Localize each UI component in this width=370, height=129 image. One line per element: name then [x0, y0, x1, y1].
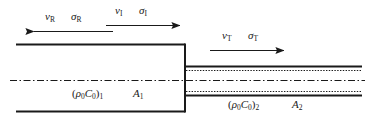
pipe-geometry-svg [0, 0, 370, 129]
right-section-area-label: A2 [292, 99, 302, 110]
left-section-area-label: A1 [133, 88, 143, 99]
left-section-impedance-label: (ρ0C0)1 [72, 88, 103, 99]
transmitted-velocity-label: νT [222, 30, 232, 41]
reflected-velocity-label: νR [45, 11, 55, 22]
incident-stress-label: σI [139, 5, 147, 16]
incident-velocity-label: νI [115, 5, 122, 16]
figure-canvas: νR σR νI σI νT σT (ρ0C0)1 A1 (ρ0C0)2 A2 [0, 0, 370, 129]
right-section-impedance-label: (ρ0C0)2 [228, 99, 259, 110]
reflected-stress-label: σR [71, 11, 82, 22]
transmitted-stress-label: σT [248, 30, 258, 41]
